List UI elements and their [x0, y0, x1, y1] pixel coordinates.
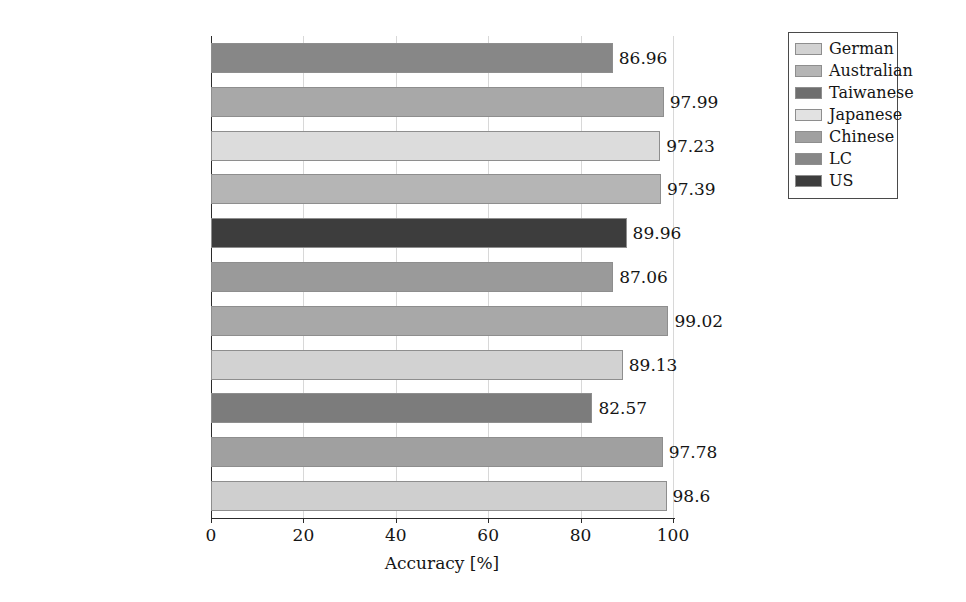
x-tick-label: 40	[385, 525, 407, 545]
legend-label: Chinese	[829, 129, 894, 145]
x-tick-mark-20	[303, 518, 304, 523]
legend-label: German	[829, 41, 894, 57]
bar	[211, 306, 668, 336]
legend-swatch	[795, 175, 822, 187]
legend-item: Japanese	[795, 104, 891, 126]
bar-row: 86.96	[211, 43, 673, 73]
bar-value-label: 97.78	[669, 444, 718, 461]
legend-label: Australian	[829, 63, 913, 79]
legend-label: US	[829, 173, 853, 189]
legend-swatch	[795, 153, 822, 165]
bar	[211, 262, 613, 292]
x-tick-label: 60	[477, 525, 499, 545]
x-tick-mark-100	[673, 518, 674, 523]
x-tick-mark-0	[211, 518, 212, 523]
bar-value-label: 89.96	[633, 225, 682, 242]
bar-row: 97.78	[211, 437, 673, 467]
x-tick-label: 20	[293, 525, 315, 545]
legend-item: Taiwanese	[795, 82, 891, 104]
plot-area: 86.9697.9997.2397.3989.9687.0699.0289.13…	[211, 36, 673, 518]
legend-label: Taiwanese	[829, 85, 914, 101]
bar-chart-figure: Discriminant modelAutoencoderAutoencoder…	[0, 0, 966, 602]
x-tick-label: 0	[206, 525, 217, 545]
bar	[211, 43, 613, 73]
legend-box: GermanAustralianTaiwaneseJapaneseChinese…	[788, 32, 898, 199]
bar-value-label: 98.6	[673, 488, 711, 505]
legend-item: US	[795, 170, 891, 192]
bar-row: 89.96	[211, 218, 673, 248]
bar-value-label: 87.06	[619, 269, 668, 286]
bar-row: 89.13	[211, 350, 673, 380]
bar-value-label: 99.02	[674, 313, 723, 330]
x-tick-mark-80	[581, 518, 582, 523]
legend-swatch	[795, 109, 822, 121]
bar-value-label: 97.23	[666, 138, 715, 155]
bar-value-label: 97.39	[667, 181, 716, 198]
bar	[211, 131, 660, 161]
legend-item: LC	[795, 148, 891, 170]
bar-value-label: 86.96	[619, 50, 668, 67]
x-tick-label: 80	[570, 525, 592, 545]
bar-row: 82.57	[211, 393, 673, 423]
x-tick-mark-40	[396, 518, 397, 523]
bar	[211, 393, 592, 423]
legend-swatch	[795, 131, 822, 143]
legend-label: Japanese	[829, 107, 902, 123]
x-axis-title: Accuracy [%]	[211, 553, 673, 573]
legend-swatch	[795, 65, 822, 77]
bar-row: 97.99	[211, 87, 673, 117]
legend-item: Chinese	[795, 126, 891, 148]
bar-value-label: 89.13	[629, 357, 678, 374]
bar-row: 99.02	[211, 306, 673, 336]
legend-swatch	[795, 43, 822, 55]
y-axis-category-labels: Discriminant modelAutoencoderAutoencoder…	[0, 0, 200, 602]
x-tick-mark-60	[488, 518, 489, 523]
bar-row: 97.39	[211, 174, 673, 204]
bar-value-label: 97.99	[670, 94, 719, 111]
bar-row: 97.23	[211, 131, 673, 161]
bar	[211, 174, 661, 204]
legend-item: German	[795, 38, 891, 60]
bar	[211, 218, 627, 248]
bar	[211, 437, 663, 467]
bar	[211, 481, 667, 511]
bar-value-label: 82.57	[598, 400, 647, 417]
legend-swatch	[795, 87, 822, 99]
bar	[211, 87, 664, 117]
bar-row: 98.6	[211, 481, 673, 511]
bar-row: 87.06	[211, 262, 673, 292]
x-axis-spine	[211, 518, 675, 519]
legend-label: LC	[829, 151, 852, 167]
legend-item: Australian	[795, 60, 891, 82]
x-tick-label: 100	[657, 525, 689, 545]
bar	[211, 350, 623, 380]
